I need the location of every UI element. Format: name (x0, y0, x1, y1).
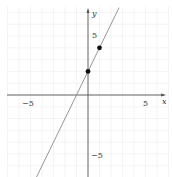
function-line (36, 8, 119, 177)
y-tick-neg5: −5 (91, 151, 103, 160)
y-axis-arrow-icon (87, 8, 90, 13)
data-point (97, 45, 102, 50)
data-point (86, 69, 91, 74)
x-tick-neg5: −5 (22, 99, 34, 108)
y-tick-5: 5 (92, 31, 97, 40)
x-axis-label: x (162, 97, 167, 106)
x-tick-5: 5 (143, 99, 148, 108)
coordinate-plane: y x −5 5 5 −5 (0, 0, 172, 177)
y-axis-label: y (91, 9, 97, 18)
